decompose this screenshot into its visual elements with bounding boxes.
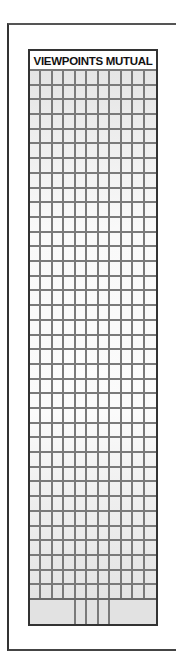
grid-cell — [110, 436, 121, 451]
form-grid — [30, 69, 156, 598]
grid-cell — [110, 84, 121, 99]
grid-cell — [122, 113, 133, 128]
grid-cell — [76, 554, 87, 569]
grid-cell — [87, 525, 98, 540]
grid-cell — [99, 539, 110, 554]
grid-cell — [41, 539, 52, 554]
grid-cell — [145, 392, 156, 407]
grid-cell — [30, 480, 41, 495]
grid-cell — [99, 319, 110, 334]
grid-cell — [76, 466, 87, 481]
grid-cell — [64, 334, 75, 349]
grid-cell — [145, 525, 156, 540]
grid-cell — [76, 260, 87, 275]
grid-cell — [53, 525, 64, 540]
grid-cell — [99, 84, 110, 99]
grid-cell — [133, 84, 144, 99]
grid-cell — [64, 451, 75, 466]
grid-cell — [76, 378, 87, 393]
grid-cell — [87, 451, 98, 466]
grid-cell — [110, 583, 121, 598]
grid-cell — [41, 260, 52, 275]
grid-cell — [41, 98, 52, 113]
grid-cell — [110, 201, 121, 216]
grid-cell — [41, 113, 52, 128]
grid-cell — [133, 539, 144, 554]
grid-cell — [110, 231, 121, 246]
grid-cell — [122, 319, 133, 334]
grid-cell — [76, 304, 87, 319]
grid-cell — [53, 392, 64, 407]
grid-cell — [64, 245, 75, 260]
grid-cell — [122, 539, 133, 554]
grid-cell — [30, 569, 41, 584]
grid-cell — [133, 142, 144, 157]
grid-cell — [87, 304, 98, 319]
grid-cell — [110, 157, 121, 172]
grid-cell — [64, 128, 75, 143]
grid-cell — [41, 231, 52, 246]
grid-cell — [145, 172, 156, 187]
grid-cell — [53, 128, 64, 143]
form-card: VIEWPOINTS MUTUAL — [28, 49, 158, 626]
grid-cell — [53, 495, 64, 510]
grid-cell — [87, 363, 98, 378]
grid-cell — [122, 334, 133, 349]
grid-cell — [99, 480, 110, 495]
grid-cell — [145, 231, 156, 246]
grid-cell — [145, 451, 156, 466]
grid-cell — [110, 275, 121, 290]
grid-cell — [76, 245, 87, 260]
grid-cell — [64, 363, 75, 378]
grid-cell — [87, 436, 98, 451]
grid-cell — [133, 319, 144, 334]
grid-cell — [30, 260, 41, 275]
grid-cell — [64, 569, 75, 584]
grid-cell — [87, 201, 98, 216]
grid-cell — [53, 69, 64, 84]
grid-cell — [122, 260, 133, 275]
grid-cell — [30, 113, 41, 128]
grid-cell — [133, 583, 144, 598]
grid-cell — [87, 84, 98, 99]
grid-cell — [87, 539, 98, 554]
grid-cell — [64, 187, 75, 202]
grid-cell — [76, 480, 87, 495]
grid-cell — [30, 407, 41, 422]
grid-cell — [133, 422, 144, 437]
grid-cell — [99, 348, 110, 363]
grid-cell — [76, 319, 87, 334]
grid-cell — [133, 525, 144, 540]
grid-cell — [87, 245, 98, 260]
grid-cell — [53, 172, 64, 187]
grid-cell — [133, 98, 144, 113]
grid-cell — [41, 201, 52, 216]
grid-cell — [76, 510, 87, 525]
grid-cell — [41, 480, 52, 495]
grid-cell — [87, 113, 98, 128]
grid-cell — [145, 69, 156, 84]
grid-cell — [110, 69, 121, 84]
grid-cell — [64, 69, 75, 84]
grid-cell — [41, 69, 52, 84]
grid-cell — [53, 480, 64, 495]
grid-cell — [99, 569, 110, 584]
grid-cell — [87, 422, 98, 437]
grid-cell — [30, 275, 41, 290]
grid-cell — [145, 260, 156, 275]
grid-cell — [64, 554, 75, 569]
grid-cell — [110, 569, 121, 584]
grid-cell — [30, 304, 41, 319]
grid-cell — [30, 392, 41, 407]
grid-cell — [122, 304, 133, 319]
grid-cell — [30, 172, 41, 187]
grid-cell — [87, 187, 98, 202]
grid-cell — [99, 128, 110, 143]
grid-cell — [53, 304, 64, 319]
grid-cell — [99, 187, 110, 202]
grid-cell — [53, 201, 64, 216]
grid-cell — [76, 334, 87, 349]
grid-cell — [133, 216, 144, 231]
grid-cell — [122, 554, 133, 569]
grid-cell — [110, 334, 121, 349]
